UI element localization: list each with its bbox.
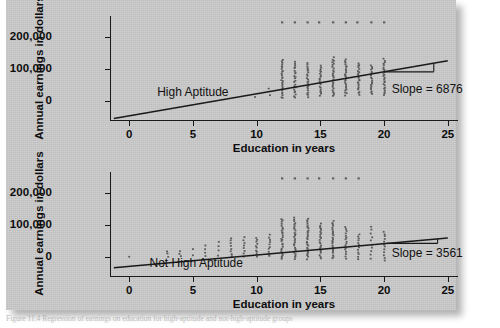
data-point [166, 253, 168, 255]
data-point [293, 236, 295, 238]
data-point [293, 227, 295, 229]
data-point [358, 86, 360, 88]
data-point [384, 234, 386, 236]
y-tick-label-not-high-aptitude-2: 200,000 [10, 186, 52, 198]
data-point [282, 254, 284, 256]
data-point [230, 248, 232, 250]
data-point [268, 251, 270, 253]
y-tick-label-not-high-aptitude-1: 100,000 [10, 218, 52, 230]
x-tick-label-high-aptitude-1: 5 [190, 128, 196, 140]
data-point [383, 251, 385, 253]
data-point [294, 258, 296, 260]
data-point [294, 66, 296, 68]
data-point [332, 252, 334, 254]
data-point [243, 236, 245, 238]
data-point [383, 68, 385, 70]
data-point [370, 87, 372, 89]
chart-not-high-aptitude: Annual earnings in dollars Education in … [6, 158, 456, 308]
data-point [268, 88, 270, 90]
data-point [295, 255, 297, 257]
data-point [331, 240, 333, 242]
data-point [243, 247, 245, 249]
capped-data-point [318, 177, 320, 179]
x-tick-not-high-aptitude-3 [320, 276, 321, 282]
y-tick-not-high-aptitude-2 [105, 193, 111, 194]
capped-data-point [306, 21, 308, 23]
data-point [370, 250, 372, 252]
data-point [307, 67, 309, 69]
data-point [345, 235, 347, 237]
data-point [294, 240, 296, 242]
data-point [384, 91, 386, 93]
x-tick-label-not-high-aptitude-3: 15 [314, 284, 327, 296]
y-tick-not-high-aptitude-1 [105, 225, 111, 226]
data-point [345, 237, 347, 239]
data-point [320, 246, 322, 248]
data-point [357, 236, 359, 238]
data-point [320, 68, 322, 70]
data-point [384, 77, 386, 79]
data-point [293, 96, 295, 98]
data-point [128, 256, 130, 258]
data-point [204, 248, 206, 250]
data-point [320, 258, 322, 260]
data-point [332, 230, 334, 232]
data-point [345, 253, 347, 255]
data-point [294, 222, 296, 224]
data-point [320, 89, 322, 91]
capped-data-point [345, 21, 347, 23]
data-point [331, 222, 333, 224]
data-point [357, 249, 359, 251]
data-point [332, 256, 334, 258]
data-point [281, 73, 283, 75]
data-point [294, 225, 296, 227]
data-point [192, 248, 194, 250]
x-tick-label-high-aptitude-4: 20 [378, 128, 391, 140]
data-point [371, 66, 373, 68]
data-point [332, 74, 334, 76]
slope-annotation-not-high-aptitude: Slope = 3561 [392, 246, 463, 260]
data-point [320, 75, 322, 77]
capped-data-point [332, 177, 334, 179]
data-point [255, 250, 257, 252]
data-point [294, 91, 296, 93]
x-tick-high-aptitude-4 [384, 120, 385, 126]
data-point [256, 256, 258, 258]
data-point [345, 68, 347, 70]
data-point [281, 221, 283, 223]
data-point [344, 95, 346, 97]
data-point [383, 241, 385, 243]
data-point [383, 64, 385, 66]
data-point [293, 217, 295, 219]
capped-data-point [294, 177, 296, 179]
data-point [269, 234, 271, 236]
data-point [332, 245, 334, 247]
data-point [281, 82, 283, 84]
y-tick-label-high-aptitude-2: 200,000 [10, 30, 52, 42]
data-point [256, 239, 258, 241]
y-tick-high-aptitude-0 [105, 101, 111, 102]
data-point [256, 243, 258, 245]
data-point [319, 70, 321, 72]
figure-image-panel: Annual earnings in dollars Education in … [6, 0, 456, 310]
data-point [384, 90, 386, 92]
data-point [244, 250, 246, 252]
data-point [280, 238, 282, 240]
x-tick-label-not-high-aptitude-0: 0 [126, 284, 132, 296]
data-point [231, 253, 233, 255]
data-point [345, 256, 347, 258]
data-point [307, 89, 309, 91]
data-point [357, 88, 359, 90]
data-point [269, 243, 271, 245]
data-point [371, 247, 373, 249]
data-point [370, 229, 372, 231]
data-point [383, 80, 385, 82]
data-point [306, 241, 308, 243]
data-point [345, 71, 347, 73]
data-point [332, 86, 334, 88]
data-point [332, 238, 334, 240]
data-point [255, 245, 257, 247]
data-point [280, 218, 282, 220]
data-point [384, 260, 386, 262]
data-point [320, 91, 322, 93]
